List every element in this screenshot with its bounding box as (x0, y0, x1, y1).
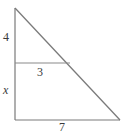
hypotenuse-line (15, 8, 120, 120)
geometry-figure: 4 x 3 7 (0, 0, 130, 137)
label-base: 7 (59, 121, 65, 133)
label-cross-segment: 3 (37, 66, 43, 78)
triangle-diagram-canvas (0, 0, 130, 137)
label-left-upper-leg: 4 (3, 31, 9, 43)
label-left-lower-leg: x (3, 84, 8, 96)
